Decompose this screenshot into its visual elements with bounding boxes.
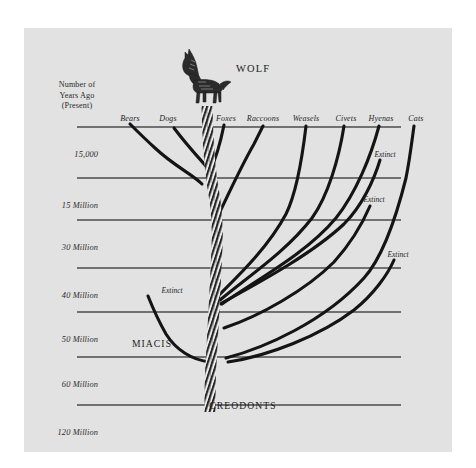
taxon-label-weasels: Weasels [293,114,320,123]
taxon-label-raccoons: Raccoons [247,114,279,123]
extinct-label-lower-right: Extinct [388,250,409,259]
wolf-illustration-icon [172,46,234,108]
tick-label: 120 Million [26,428,98,437]
tick-label: 15,000 [26,150,98,159]
node-label-creodonts: CREODONTS [209,400,276,411]
taxon-label-civets: Civets [336,114,357,123]
axis-header-line-1: Years Ago [34,91,120,102]
taxon-label-bears: Bears [120,114,139,123]
branch-dogs [174,128,206,166]
taxon-label-cats: Cats [408,114,423,123]
axis-header-line-2: (Present) [34,101,120,112]
extinct-label-left: Extinct [162,286,183,295]
taxon-label-hyenas: Hyenas [369,114,394,123]
branch-extinct-left [148,296,210,362]
taxon-label-dogs: Dogs [159,114,177,123]
taxon-label-foxes: Foxes [216,114,236,123]
tick-label: 15 Million [26,201,98,210]
diagram-panel: Number of Years Ago (Present) Number of … [24,28,452,452]
branch-weasels [218,126,306,296]
tick-label: 60 Million [26,380,98,389]
branches [130,124,414,362]
y-axis-header: Number of Years Ago (Present) Number of … [34,80,120,112]
gridlines [77,127,401,405]
figure-canvas: Number of Years Ago (Present) Number of … [0,0,476,468]
extinct-label-mid-right: Extinct [364,195,385,204]
axis-header-line-0: Number of [34,80,120,91]
branch-bears [130,124,202,184]
wolf-text-label: WOLF [236,63,270,74]
tick-label: 30 Million [26,243,98,252]
tick-label: 50 Million [26,335,98,344]
branch-hyenas [222,126,379,304]
extinct-label-upper-right: Extinct [375,150,396,159]
tick-label: 40 Million [26,291,98,300]
node-label-miacis: MIACIS [132,338,172,349]
